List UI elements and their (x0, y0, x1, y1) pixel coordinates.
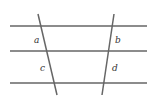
diagram-canvas (0, 0, 162, 107)
parallel-lines-diagram: a b c d (0, 0, 162, 107)
segment-label-d: d (112, 64, 118, 73)
segment-label-c: c (40, 64, 45, 73)
segment-label-b: b (115, 36, 121, 45)
segment-label-a: a (34, 36, 39, 45)
